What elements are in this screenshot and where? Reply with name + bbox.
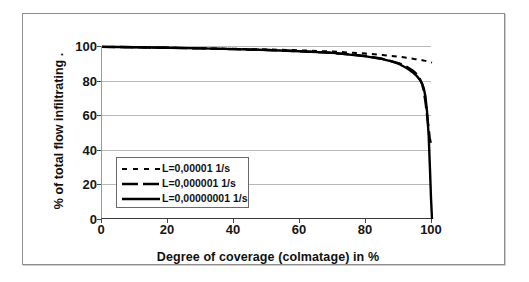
legend-item: L=0,00001 1/s — [121, 161, 244, 176]
y-tick-label: 60 — [63, 109, 97, 122]
x-axis-ticks: 0 20 40 60 80 100 — [101, 223, 431, 241]
figure-frame: % of total flow infiltrating . 0 20 40 6… — [22, 13, 505, 265]
x-axis-title: Degree of coverage (colmatage) in % — [83, 250, 453, 264]
legend-label: L=0,00000001 1/s — [162, 193, 248, 204]
legend-item: L=0,000001 1/s — [121, 176, 244, 191]
chart-figure: % of total flow infiltrating . 0 20 40 6… — [0, 0, 529, 282]
x-tick-label: 60 — [279, 223, 319, 236]
y-tick-label: 100 — [63, 40, 97, 53]
legend-swatch-dashed-icon — [121, 164, 161, 174]
legend-swatch-long-dash-icon — [121, 179, 161, 189]
x-tick-label: 20 — [147, 223, 187, 236]
x-tick-label: 80 — [345, 223, 385, 236]
x-tick-label: 40 — [213, 223, 253, 236]
y-tick-label: 80 — [63, 74, 97, 87]
x-tick-label: 0 — [81, 223, 121, 236]
y-tick-label: 40 — [63, 143, 97, 156]
y-tick-label: 20 — [63, 178, 97, 191]
legend-label: L=0,000001 1/s — [162, 178, 236, 189]
series-line — [102, 47, 431, 143]
legend-item: L=0,00000001 1/s — [121, 191, 244, 206]
legend-swatch-solid-icon — [121, 194, 161, 204]
legend-label: L=0,00001 1/s — [162, 163, 230, 174]
x-tick-label: 100 — [411, 223, 451, 236]
chart-legend: L=0,00001 1/s L=0,000001 1/s L=0,0000000… — [116, 157, 249, 208]
y-axis-ticks: 0 20 40 60 80 100 — [59, 46, 97, 219]
